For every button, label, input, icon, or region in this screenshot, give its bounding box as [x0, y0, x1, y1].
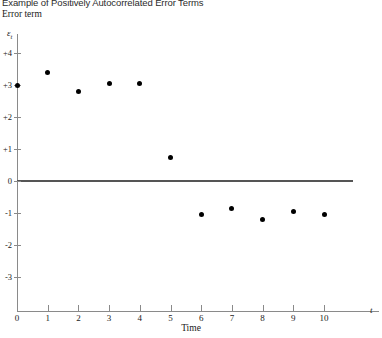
x-tick-label: 6 — [191, 313, 211, 323]
x-tick-mark — [324, 305, 325, 312]
x-tick-label: 3 — [99, 313, 119, 323]
data-point — [168, 155, 173, 160]
x-tick-mark — [232, 305, 233, 312]
data-point — [76, 89, 81, 94]
y-tick-mark — [14, 149, 21, 150]
x-tick-mark — [78, 305, 79, 312]
y-tick-mark — [14, 181, 21, 182]
data-point — [199, 212, 204, 217]
data-point — [107, 81, 112, 86]
y-tick-label: +3 — [0, 80, 12, 90]
y-tick-mark — [14, 213, 21, 214]
x-tick-label: 1 — [38, 313, 58, 323]
x-tick-label: 10 — [314, 313, 334, 323]
x-tick-label: 2 — [68, 313, 88, 323]
x-tick-label: 8 — [253, 313, 273, 323]
data-point — [260, 217, 265, 222]
x-axis-symbol: t — [370, 305, 373, 315]
data-point — [45, 70, 50, 75]
data-point — [137, 81, 142, 86]
epsilon-subscript: t — [11, 33, 13, 40]
y-tick-label: +2 — [0, 112, 12, 122]
y-tick-mark — [14, 277, 21, 278]
figure-title: Example of Positively Autocorrelated Err… — [2, 0, 203, 8]
data-point — [229, 206, 234, 211]
x-tick-label: 4 — [130, 313, 150, 323]
y-tick-label: -2 — [0, 240, 12, 250]
y-tick-label: +1 — [0, 144, 12, 154]
chart-figure: Example of Positively Autocorrelated Err… — [0, 0, 382, 338]
y-tick-label: -3 — [0, 272, 12, 282]
y-axis-title: Error term — [2, 9, 42, 19]
y-tick-mark — [14, 117, 21, 118]
x-tick-mark — [140, 305, 141, 312]
x-tick-mark — [17, 305, 18, 312]
y-tick-label: +4 — [0, 48, 12, 58]
x-tick-mark — [109, 305, 110, 312]
x-tick-mark — [48, 305, 49, 312]
y-axis-symbol: εt — [7, 28, 12, 40]
data-point — [322, 212, 327, 217]
x-tick-label: 9 — [283, 313, 303, 323]
zero-reference-line — [17, 180, 353, 182]
y-tick-mark — [14, 53, 21, 54]
x-tick-mark — [201, 305, 202, 312]
x-tick-mark — [171, 305, 172, 312]
x-tick-label: 0 — [7, 313, 27, 323]
y-tick-label: -1 — [0, 208, 12, 218]
x-tick-mark — [263, 305, 264, 312]
y-axis-line — [17, 34, 18, 312]
y-tick-mark — [14, 245, 21, 246]
x-tick-label: 7 — [222, 313, 242, 323]
x-tick-label: 5 — [161, 313, 181, 323]
data-point — [15, 83, 20, 88]
x-tick-mark — [293, 305, 294, 312]
y-tick-label: 0 — [0, 176, 12, 186]
data-point — [291, 209, 296, 214]
x-axis-caption: Time — [0, 323, 382, 333]
